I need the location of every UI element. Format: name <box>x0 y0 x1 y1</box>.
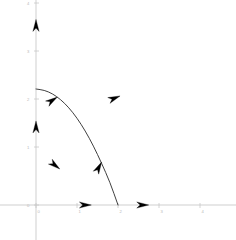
solution-curve <box>36 89 118 205</box>
x-tick-label: 0 <box>38 209 41 214</box>
arrowhead <box>46 95 59 107</box>
y-axis-ticks: 01234 <box>27 1 39 208</box>
direction-field-plot: 01234 01234 <box>0 0 236 240</box>
field-arrow-lower-left <box>48 159 61 171</box>
arrowhead <box>48 159 61 171</box>
y-tick-label: 1 <box>27 145 30 150</box>
y-tick-label: 4 <box>27 1 30 6</box>
curve-lower-arrow <box>93 161 104 175</box>
direction-arrows <box>33 19 149 208</box>
x-tick-label: 3 <box>161 209 164 214</box>
y-tick-label: 3 <box>27 49 30 54</box>
y-tick-label: 2 <box>27 97 30 102</box>
curve-upper-arrow <box>46 95 59 107</box>
arrowhead <box>93 161 104 175</box>
x-tick-label: 2 <box>120 209 123 214</box>
field-arrow-right <box>108 93 121 103</box>
plot-canvas: 01234 01234 <box>0 0 236 240</box>
arrowhead <box>108 93 121 103</box>
x-tick-label: 4 <box>202 209 205 214</box>
x-tick-label: 1 <box>79 209 82 214</box>
